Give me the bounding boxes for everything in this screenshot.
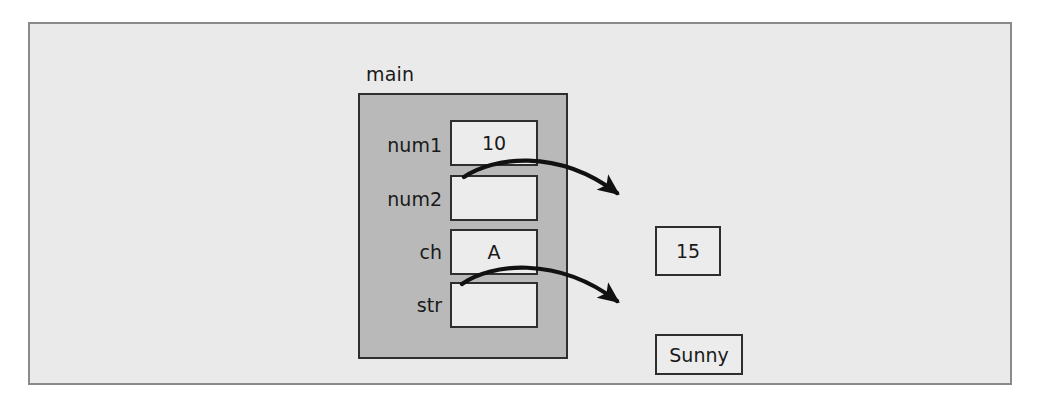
scope-label-main: main [366,62,414,86]
var-label-str: str [356,294,442,316]
heap-cell-int: 15 [655,226,721,276]
var-cell-str [450,282,538,328]
diagram-canvas: main num1 num2 ch str 10 A 15 Sunny [0,0,1039,405]
var-cell-num2 [450,175,538,221]
var-cell-num1: 10 [450,120,538,166]
var-label-num2: num2 [356,188,442,210]
var-label-ch: ch [356,241,442,263]
var-label-num1: num1 [356,134,442,156]
var-cell-ch: A [450,229,538,275]
heap-cell-string: Sunny [655,334,743,375]
figure-frame: main num1 num2 ch str 10 A 15 Sunny [28,22,1012,385]
